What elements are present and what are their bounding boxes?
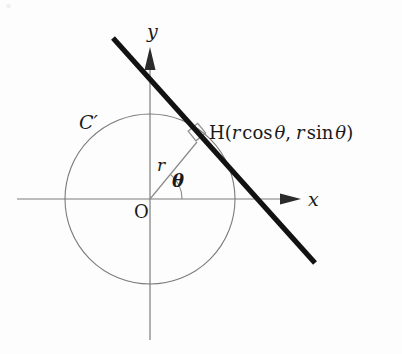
point-close-paren: ) xyxy=(346,122,353,143)
point-x-cos: cos xyxy=(242,122,272,143)
x-axis-label: x xyxy=(308,190,319,209)
point-x-radius-var: r xyxy=(232,122,241,143)
origin-label: O xyxy=(134,203,149,221)
figure-canvas xyxy=(0,0,402,354)
point-open-paren: ( xyxy=(225,122,232,143)
point-y-sin: sin xyxy=(307,122,334,143)
point-comma: , xyxy=(285,122,291,143)
y-axis-arrowhead xyxy=(145,47,156,70)
math-figure: y x O C′ r θ H(rcosθ,rsinθ) xyxy=(0,0,402,354)
y-axis-label: y xyxy=(147,22,158,41)
x-axis-arrowhead xyxy=(280,194,301,205)
point-x-theta: θ xyxy=(275,122,286,143)
point-h-label: H(rcosθ,rsinθ) xyxy=(209,124,353,142)
angle-label: θ xyxy=(172,172,184,190)
point-y-radius-var: r xyxy=(296,122,305,143)
circle-label: C′ xyxy=(79,113,98,132)
point-h-name: H xyxy=(209,122,225,143)
radius-label: r xyxy=(157,157,165,174)
tangent-line xyxy=(113,38,315,263)
point-y-theta: θ xyxy=(335,122,346,143)
